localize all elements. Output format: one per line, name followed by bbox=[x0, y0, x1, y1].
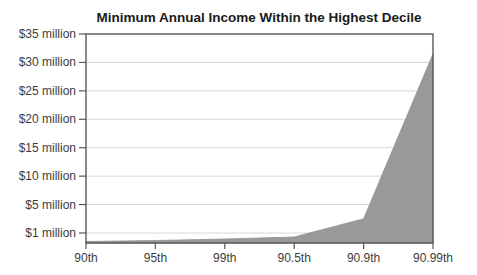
y-tick-label: $25 million bbox=[19, 84, 76, 98]
x-tick-label: 95th bbox=[144, 251, 167, 265]
x-tick-label: 90.9th bbox=[347, 251, 380, 265]
y-tick-label: $1 million bbox=[25, 226, 76, 240]
y-tick-label: $10 million bbox=[19, 169, 76, 183]
y-tick-label: $20 million bbox=[19, 112, 76, 126]
y-tick-label: $35 million bbox=[19, 27, 76, 41]
x-tick-label: 90.99th bbox=[413, 251, 453, 265]
x-tick-label: 99th bbox=[213, 251, 236, 265]
chart-title: Minimum Annual Income Within the Highest… bbox=[97, 10, 422, 25]
y-tick-label: $5 million bbox=[25, 198, 76, 212]
plot-area: Minimum Annual Income Within the Highest… bbox=[0, 0, 477, 275]
chart: Minimum Annual Income Within the Highest… bbox=[0, 0, 477, 275]
x-tick-label: 90.5th bbox=[278, 251, 311, 265]
y-tick-label: $30 million bbox=[19, 55, 76, 69]
area-series bbox=[86, 54, 433, 243]
x-tick-label: 90th bbox=[74, 251, 97, 265]
y-tick-label: $15 million bbox=[19, 141, 76, 155]
